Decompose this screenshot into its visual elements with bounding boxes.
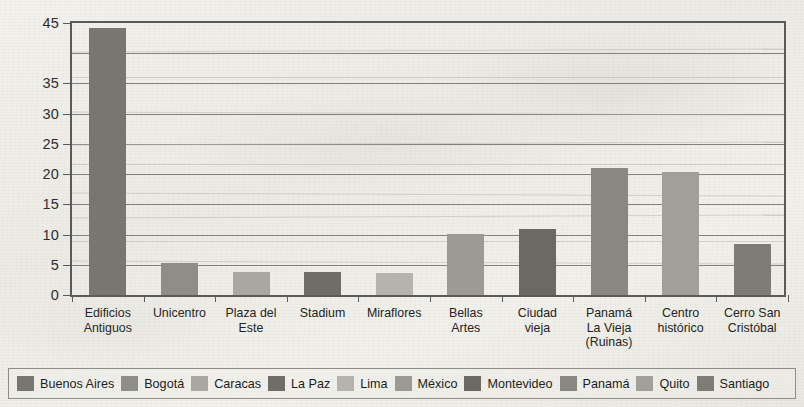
bar-chart-panel: 4535302520151050 Edificios AntiguosUnice… [8,8,796,360]
legend-item[interactable]: Montevideo [464,376,552,391]
legend-swatch-icon [636,376,653,391]
x-tick [788,295,789,302]
y-tick-35 [63,83,72,84]
legend-item[interactable]: Quito [636,376,689,391]
y-axis-label: 20 [42,166,59,182]
bar [376,273,413,295]
x-tick [358,295,359,302]
legend-swatch-icon [395,376,412,391]
bar [662,172,699,295]
y-tick-45 [63,23,72,24]
bar [519,229,556,295]
y-tick-20 [63,174,72,175]
bars-group [72,23,784,295]
legend-item[interactable]: Panamá [560,376,630,391]
y-tick-15 [63,204,72,205]
legend-label: Bogotá [144,377,184,391]
x-tick [716,295,717,302]
legend-swatch-icon [560,376,577,391]
legend-item[interactable]: Santiago [697,376,770,391]
y-axis-label: 5 [51,257,59,273]
x-axis-label: Cerro San Cristóbal [706,306,798,335]
legend-swatch-icon [268,376,285,391]
y-tick-30 [63,114,72,115]
legend-label: Montevideo [487,377,552,391]
legend-item[interactable]: Buenos Aires [17,376,114,391]
bar [161,263,198,295]
x-tick [502,295,503,302]
legend-swatch-icon [121,376,138,391]
legend-label: Lima [360,377,387,391]
plot-area: 4535302520151050 Edificios AntiguosUnice… [70,21,786,297]
x-tick [72,295,73,302]
bar [591,168,628,295]
legend-swatch-icon [191,376,208,391]
legend-label: Santiago [720,377,770,391]
legend-item[interactable]: Bogotá [121,376,184,391]
legend-swatch-icon [337,376,354,391]
y-axis-label: 0 [51,287,59,303]
x-tick [215,295,216,302]
bar [233,272,270,295]
legend-swatch-icon [697,376,714,391]
legend-item[interactable]: México [395,376,458,391]
legend-label: México [418,377,458,391]
y-axis-label: 35 [42,75,59,91]
y-tick-10 [63,235,72,236]
legend-swatch-icon [17,376,34,391]
legend-item[interactable]: Caracas [191,376,261,391]
legend-label: Quito [659,377,689,391]
y-axis-label: 15 [42,196,59,212]
y-tick-25 [63,144,72,145]
y-axis-label: 30 [42,106,59,122]
legend-label: Buenos Aires [40,377,114,391]
x-tick [144,295,145,302]
legend-item[interactable]: La Paz [268,376,330,391]
legend-label: La Paz [291,377,330,391]
x-tick [573,295,574,302]
chart-legend: Buenos AiresBogotáCaracasLa PazLimaMéxic… [8,368,796,399]
y-axis-label: 25 [42,136,59,152]
legend-label: Panamá [583,377,630,391]
x-tick [645,295,646,302]
y-axis-label: 45 [42,15,59,31]
bar [447,234,484,295]
bar [304,272,341,295]
legend-label: Caracas [214,377,261,391]
x-tick [287,295,288,302]
x-tick [430,295,431,302]
bar [734,244,771,295]
y-tick-5 [63,265,72,266]
legend-swatch-icon [464,376,481,391]
bar [89,28,126,295]
y-axis-label: 10 [42,227,59,243]
y-tick-0 [63,295,72,296]
legend-item[interactable]: Lima [337,376,387,391]
